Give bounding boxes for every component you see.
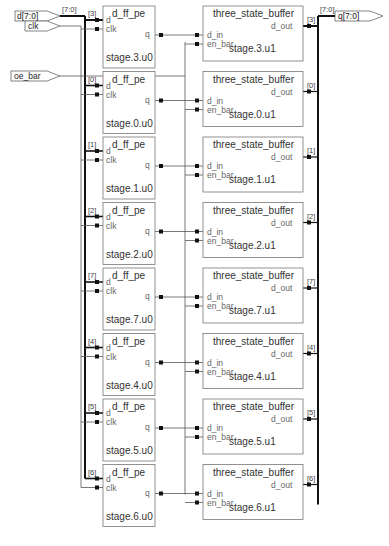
svg-text:stage.7.u1: stage.7.u1: [229, 305, 276, 316]
bit-label: [0]: [88, 75, 96, 84]
stage-5: [4]d_ff_pedclkqstage.4.u0three_state_buf…: [88, 334, 315, 396]
stage-3: [2]d_ff_pedclkqstage.2.u0three_state_buf…: [88, 203, 315, 265]
svg-text:q: q: [145, 29, 150, 39]
buffer-stage.1.u1[interactable]: three_state_bufferd_inen_bard_outstage.1…: [203, 137, 303, 192]
port-label-q: q[7:0]: [338, 11, 359, 21]
svg-text:d_out: d_out: [271, 349, 293, 359]
svg-text:stage.4.u0: stage.4.u0: [106, 380, 153, 391]
flipflop-stage.2.u0[interactable]: d_ff_pedclkqstage.2.u0: [103, 203, 155, 265]
stage-7: [6]d_ff_pedclkqstage.6.u0three_state_buf…: [88, 465, 315, 527]
svg-text:three_state_buffer: three_state_buffer: [213, 205, 295, 216]
buffer-stage.4.u1[interactable]: three_state_bufferd_inen_bard_outstage.4…: [203, 334, 303, 389]
bit-label: [1]: [88, 140, 96, 149]
flipflop-stage.7.u0[interactable]: d_ff_pedclkqstage.7.u0: [103, 268, 155, 330]
svg-text:stage.4.u1: stage.4.u1: [229, 371, 276, 382]
out-bit-label: [1]: [307, 146, 315, 155]
input-port-oe-bar[interactable]: oe_bar: [11, 71, 60, 81]
flipflop-stage.3.u0[interactable]: d_ff_pedclkqstage.3.u0: [103, 6, 155, 68]
stage-1: [0]d_ff_pedclkqstage.0.u0three_state_buf…: [88, 72, 315, 134]
svg-text:clk: clk: [106, 417, 117, 427]
svg-text:clk: clk: [106, 483, 117, 493]
buffer-stage.6.u1[interactable]: three_state_bufferd_inen_bard_outstage.6…: [203, 465, 303, 520]
stage-6: [5]d_ff_pedclkqstage.5.u0three_state_buf…: [88, 399, 315, 461]
svg-text:d_out: d_out: [271, 218, 293, 228]
svg-text:clk: clk: [106, 24, 117, 34]
out-bit-label: [4]: [307, 343, 315, 352]
buffer-stage.5.u1[interactable]: three_state_bufferd_inen_bard_outstage.5…: [203, 399, 303, 454]
svg-text:q: q: [145, 226, 150, 236]
out-bit-label: [3]: [307, 15, 315, 24]
svg-text:three_state_buffer: three_state_buffer: [213, 270, 295, 281]
svg-text:q: q: [145, 160, 150, 170]
svg-text:stage.1.u1: stage.1.u1: [229, 174, 276, 185]
svg-text:three_state_buffer: three_state_buffer: [213, 74, 295, 85]
svg-text:stage.0.u1: stage.0.u1: [229, 109, 276, 120]
svg-text:clk: clk: [106, 352, 117, 362]
svg-text:stage.2.u0: stage.2.u0: [106, 249, 153, 260]
flipflop-stage.1.u0[interactable]: d_ff_pedclkqstage.1.u0: [103, 137, 155, 199]
bit-label: [2]: [88, 206, 96, 215]
flipflop-stage.0.u0[interactable]: d_ff_pedclkqstage.0.u0: [103, 72, 155, 134]
flipflop-stage.5.u0[interactable]: d_ff_pedclkqstage.5.u0: [103, 399, 155, 461]
svg-text:d_ff_pe: d_ff_pe: [112, 401, 146, 412]
out-bit-label: [0]: [307, 81, 315, 90]
svg-text:q: q: [145, 95, 150, 105]
svg-text:q: q: [145, 357, 150, 367]
svg-text:d_out: d_out: [271, 21, 293, 31]
svg-text:clk: clk: [106, 155, 117, 165]
schematic-canvas: d[7:0] clk oe_bar q[7:0] [7:0] [7:0] [3]…: [0, 0, 389, 546]
svg-text:d_ff_pe: d_ff_pe: [112, 8, 146, 19]
svg-text:d_out: d_out: [271, 152, 293, 162]
svg-text:stage.2.u1: stage.2.u1: [229, 240, 276, 251]
bit-label: [5]: [88, 402, 96, 411]
svg-text:stage.0.u0: stage.0.u0: [106, 118, 153, 129]
svg-text:stage.3.u0: stage.3.u0: [106, 52, 153, 63]
svg-text:three_state_buffer: three_state_buffer: [213, 8, 295, 19]
svg-text:three_state_buffer: three_state_buffer: [213, 401, 295, 412]
svg-text:d_out: d_out: [271, 480, 293, 490]
svg-text:stage.3.u1: stage.3.u1: [229, 43, 276, 54]
bus-label-d: [7:0]: [62, 5, 77, 14]
stage-2: [1]d_ff_pedclkqstage.1.u0three_state_buf…: [88, 137, 315, 199]
svg-text:stage.7.u0: stage.7.u0: [106, 314, 153, 325]
svg-text:clk: clk: [106, 90, 117, 100]
svg-text:clk: clk: [106, 221, 117, 231]
svg-text:d_ff_pe: d_ff_pe: [112, 270, 146, 281]
bus-label-q: [7:0]: [320, 5, 335, 14]
svg-text:stage.1.u0: stage.1.u0: [106, 183, 153, 194]
stage-4: [7]d_ff_pedclkqstage.7.u0three_state_buf…: [88, 268, 315, 330]
port-label-d: d[7:0]: [17, 11, 38, 21]
output-port-q[interactable]: q[7:0]: [335, 11, 383, 21]
svg-text:d_out: d_out: [271, 87, 293, 97]
svg-text:stage.6.u0: stage.6.u0: [106, 511, 153, 522]
flipflop-stage.6.u0[interactable]: d_ff_pedclkqstage.6.u0: [103, 465, 155, 527]
bit-label: [3]: [88, 9, 96, 18]
port-label-clk: clk: [28, 21, 39, 31]
buffer-stage.7.u1[interactable]: three_state_bufferd_inen_bard_outstage.7…: [203, 268, 303, 323]
svg-text:three_state_buffer: three_state_buffer: [213, 139, 295, 150]
svg-text:q: q: [145, 488, 150, 498]
svg-text:stage.5.u1: stage.5.u1: [229, 436, 276, 447]
svg-text:three_state_buffer: three_state_buffer: [213, 336, 295, 347]
svg-text:d_out: d_out: [271, 414, 293, 424]
port-label-oe-bar: oe_bar: [14, 71, 41, 81]
flipflop-stage.4.u0[interactable]: d_ff_pedclkqstage.4.u0: [103, 334, 155, 396]
svg-text:stage.6.u1: stage.6.u1: [229, 502, 276, 513]
out-bit-label: [5]: [307, 408, 315, 417]
out-bit-label: [7]: [307, 277, 315, 286]
buffer-stage.3.u1[interactable]: three_state_bufferd_inen_bard_outstage.3…: [203, 6, 303, 61]
bit-label: [6]: [88, 468, 96, 477]
svg-text:d_out: d_out: [271, 283, 293, 293]
input-port-clk[interactable]: clk: [25, 21, 60, 31]
svg-text:d_ff_pe: d_ff_pe: [112, 139, 146, 150]
buffer-stage.0.u1[interactable]: three_state_bufferd_inen_bard_outstage.0…: [203, 72, 303, 127]
bit-label: [4]: [88, 337, 96, 346]
svg-text:d_ff_pe: d_ff_pe: [112, 74, 146, 85]
svg-text:stage.5.u0: stage.5.u0: [106, 445, 153, 456]
stages: [3]d_ff_pedclkqstage.3.u0three_state_buf…: [88, 6, 315, 527]
svg-text:q: q: [145, 422, 150, 432]
input-port-d[interactable]: d[7:0]: [15, 11, 60, 21]
svg-text:q: q: [145, 291, 150, 301]
svg-text:d_ff_pe: d_ff_pe: [112, 467, 146, 478]
buffer-stage.2.u1[interactable]: three_state_bufferd_inen_bard_outstage.2…: [203, 203, 303, 258]
